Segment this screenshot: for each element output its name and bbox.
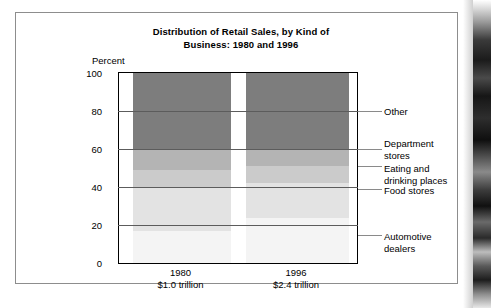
- y-tick-label-40: 40: [76, 182, 102, 193]
- leader-line-department: [358, 149, 382, 150]
- segment-1996-department: [246, 149, 349, 166]
- leader-line-food: [358, 189, 382, 190]
- y-axis-title: Percent: [92, 55, 125, 66]
- leader-line-eating: [358, 166, 382, 167]
- page-edge-shadow: [463, 0, 473, 308]
- bar-1980: [133, 73, 231, 263]
- page-edge-artifact: [473, 0, 491, 308]
- x-axis-label-1980: 1980 $1.0 trillion: [118, 267, 243, 291]
- chart-title-line-1: Distribution of Retail Sales, by Kind of: [76, 26, 406, 39]
- gridline-20: [118, 225, 358, 226]
- plot-axis-x: [118, 263, 358, 264]
- x-axis-label-1980-value: $1.0 trillion: [118, 279, 243, 291]
- legend-label-department: Department stores: [384, 138, 434, 161]
- segment-1996-food: [246, 183, 349, 218]
- x-axis-label-1980-year: 1980: [118, 267, 243, 279]
- x-axis-label-1996-value: $2.4 trillion: [231, 279, 361, 291]
- segment-1980-eating: [133, 170, 231, 187]
- segment-1980-automotive: [133, 231, 231, 263]
- x-axis-label-1996-year: 1996: [231, 267, 361, 279]
- y-tick-label-20: 20: [76, 220, 102, 231]
- legend-label-automotive: Automotive dealers: [384, 231, 432, 254]
- gridline-40: [118, 187, 358, 188]
- gridline-60: [118, 149, 358, 150]
- segment-1996-eating: [246, 166, 349, 183]
- legend-label-eating: Eating and drinking places: [384, 163, 447, 186]
- y-tick-label-80: 80: [76, 106, 102, 117]
- bar-1996: [246, 73, 349, 263]
- chart-title-line-2: Business: 1980 and 1996: [76, 39, 406, 52]
- x-axis-label-1996: 1996 $2.4 trillion: [231, 267, 361, 291]
- y-tick-label-60: 60: [76, 144, 102, 155]
- y-tick-label-100: 100: [76, 68, 102, 79]
- leader-line-other: [358, 111, 382, 112]
- legend-label-other: Other: [384, 106, 408, 118]
- plot-area: [118, 73, 358, 263]
- leader-line-automotive: [358, 235, 382, 236]
- chart-title: Distribution of Retail Sales, by Kind of…: [76, 26, 406, 51]
- legend-label-food: Food stores: [384, 185, 434, 197]
- y-tick-label-0: 0: [76, 258, 102, 269]
- gridline-80: [118, 111, 358, 112]
- chart-screenshot: Distribution of Retail Sales, by Kind of…: [0, 0, 491, 308]
- segment-1980-department: [133, 149, 231, 170]
- figure-frame: Distribution of Retail Sales, by Kind of…: [15, 12, 458, 284]
